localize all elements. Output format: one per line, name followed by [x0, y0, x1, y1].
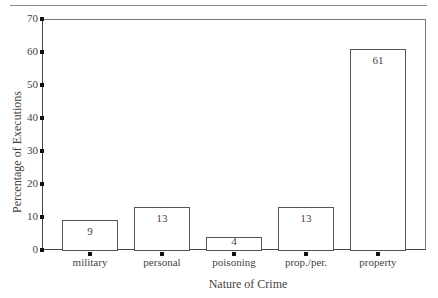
- x-axis-label: Nature of Crime: [180, 277, 316, 292]
- y-tick: [40, 182, 44, 186]
- y-tick-label: 60: [14, 45, 38, 57]
- y-tick-label: 50: [14, 78, 38, 90]
- bar-value-label: 13: [134, 212, 190, 224]
- y-tick: [40, 83, 44, 87]
- y-axis-label: Percentage of Executions: [10, 91, 25, 213]
- bar-value-label: 9: [62, 225, 118, 237]
- x-tick-label: military: [54, 256, 126, 268]
- y-tick: [40, 50, 44, 54]
- y-tick-label: 0: [14, 243, 38, 255]
- y-tick: [40, 215, 44, 219]
- bar-value-label: 4: [206, 235, 262, 247]
- y-tick: [40, 17, 44, 21]
- y-tick: [40, 149, 44, 153]
- y-tick-label: 70: [14, 12, 38, 24]
- x-tick-label: prop./per.: [270, 256, 342, 268]
- bar-value-label: 13: [278, 212, 334, 224]
- x-tick-label: poisoning: [198, 256, 270, 268]
- bar-property: [350, 49, 406, 251]
- top-rule: [10, 5, 427, 6]
- y-tick: [40, 248, 44, 252]
- x-tick-label: personal: [126, 256, 198, 268]
- x-tick-label: property: [342, 256, 414, 268]
- bar-value-label: 61: [350, 54, 406, 66]
- y-tick: [40, 116, 44, 120]
